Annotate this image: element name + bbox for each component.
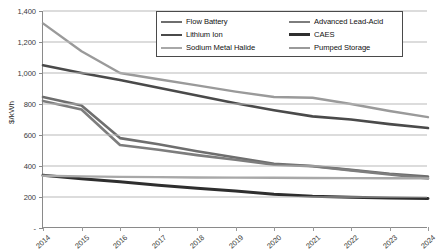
series-line xyxy=(43,176,428,179)
legend-item[interactable]: Sodium Metal Halide xyxy=(161,43,289,52)
legend-item[interactable]: CAES xyxy=(289,30,404,39)
legend-label: Pumped Storage xyxy=(314,43,370,52)
y-tick-label: - xyxy=(6,224,36,233)
x-tick-mark xyxy=(428,227,429,231)
x-tick-label: 2019 xyxy=(222,233,244,252)
y-tick-label: 1,400 xyxy=(6,7,36,16)
series-line xyxy=(43,65,428,128)
y-tick-label: 200 xyxy=(6,193,36,202)
x-tick-label: 2020 xyxy=(261,233,283,252)
gridline xyxy=(43,197,427,198)
legend-item[interactable]: Pumped Storage xyxy=(289,43,404,52)
legend-label: Advanced Lead-Acid xyxy=(314,17,383,26)
gridline xyxy=(43,166,427,167)
legend-item[interactable]: Advanced Lead-Acid xyxy=(289,17,404,26)
y-tick-label: 600 xyxy=(6,131,36,140)
x-tick-label: 2021 xyxy=(299,233,321,252)
gridline xyxy=(43,135,427,136)
legend-item[interactable]: Lithium Ion xyxy=(161,30,289,39)
y-tick-label: 400 xyxy=(6,162,36,171)
legend-label: Flow Battery xyxy=(186,17,228,26)
legend-swatch xyxy=(161,21,182,23)
y-tick-mark xyxy=(39,197,43,198)
x-tick-label: 2024 xyxy=(415,233,437,252)
gridline xyxy=(43,73,427,74)
y-tick-mark xyxy=(39,73,43,74)
y-tick-label: 800 xyxy=(6,100,36,109)
legend-label: Lithium Ion xyxy=(186,30,223,39)
legend-swatch xyxy=(161,34,182,36)
y-tick-mark xyxy=(39,104,43,105)
gridline xyxy=(43,104,427,105)
x-tick-label: 2015 xyxy=(68,233,90,252)
y-tick-mark xyxy=(39,11,43,12)
legend-item[interactable]: Flow Battery xyxy=(161,17,289,26)
legend-swatch xyxy=(161,47,182,49)
x-tick-label: 2018 xyxy=(184,233,206,252)
y-axis-tick-labels: 1,4001,2001,000800600400200- xyxy=(6,0,36,252)
y-tick-label: 1,200 xyxy=(6,38,36,47)
y-tick-label: 1,000 xyxy=(6,69,36,78)
legend-swatch xyxy=(289,47,310,49)
y-tick-mark xyxy=(39,166,43,167)
chart-legend: Flow BatteryAdvanced Lead-AcidLithium Io… xyxy=(156,11,403,57)
series-line xyxy=(43,101,428,178)
legend-label: Sodium Metal Halide xyxy=(186,43,255,52)
x-tick-label: 2023 xyxy=(376,233,398,252)
x-tick-label: 2022 xyxy=(338,233,360,252)
legend-swatch xyxy=(289,21,310,23)
x-tick-label: 2017 xyxy=(145,233,167,252)
y-tick-mark xyxy=(39,42,43,43)
legend-label: CAES xyxy=(314,30,334,39)
x-axis-tick-labels: 2014201520162017201820192020202120222023… xyxy=(42,230,427,252)
x-tick-label: 2016 xyxy=(107,233,129,252)
legend-swatch xyxy=(289,33,310,36)
y-tick-mark xyxy=(39,135,43,136)
